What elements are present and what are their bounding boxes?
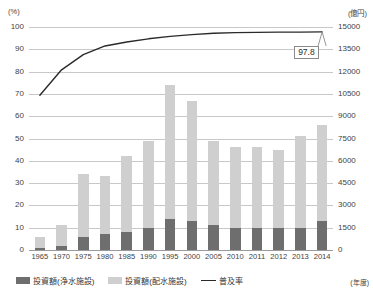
x-tick-1965: 1965 [29, 252, 51, 261]
x-tick-2012: 2012 [268, 252, 290, 261]
y-tick-right-4500: 4500 [338, 179, 373, 187]
y-tick-left-0: 0 [0, 246, 24, 254]
legend-label: 普及率 [219, 275, 243, 286]
y-tick-right-12000: 12000 [338, 68, 373, 76]
x-tick-1980: 1980 [94, 252, 116, 261]
y-tick-right-6000: 6000 [338, 157, 373, 165]
y-tick-right-13500: 13500 [338, 45, 373, 53]
y-tick-right-9000: 9000 [338, 112, 373, 120]
gridline-0 [29, 250, 333, 251]
x-axis-unit-label: (年度) [350, 277, 369, 287]
y-tick-left-20: 20 [0, 201, 24, 209]
chart-legend: 投資額(浄水施設)投資額(配水施設)普及率 [16, 275, 243, 286]
x-tick-1975: 1975 [72, 252, 94, 261]
y-tick-left-10: 10 [0, 224, 24, 232]
legend-label: 投資額(配水施設) [125, 275, 186, 286]
legend-swatch-light [108, 277, 122, 284]
x-tick-1990: 1990 [138, 252, 160, 261]
y-tick-left-30: 30 [0, 179, 24, 187]
x-tick-1985: 1985 [116, 252, 138, 261]
x-tick-1995: 1995 [159, 252, 181, 261]
legend-swatch-dark [16, 277, 30, 284]
legend-item: 投資額(配水施設) [108, 275, 186, 286]
y-tick-right-3000: 3000 [338, 201, 373, 209]
y-tick-left-80: 80 [0, 68, 24, 76]
y-tick-right-15000: 15000 [338, 23, 373, 31]
legend-item: 投資額(浄水施設) [16, 275, 94, 286]
y-tick-left-90: 90 [0, 45, 24, 53]
x-tick-2005: 2005 [203, 252, 225, 261]
left-axis-unit-label: (%) [8, 7, 20, 16]
water-investment-chart: (%) (億円) (年度) 0102030405060708090100 015… [0, 0, 373, 294]
legend-item: 普及率 [201, 275, 243, 286]
y-tick-left-60: 60 [0, 112, 24, 120]
y-tick-right-10500: 10500 [338, 90, 373, 98]
y-tick-left-40: 40 [0, 157, 24, 165]
y-tick-right-7500: 7500 [338, 135, 373, 143]
legend-label: 投資額(浄水施設) [33, 275, 94, 286]
rate-callout-badge: 97.8 [294, 46, 319, 59]
y-tick-left-50: 50 [0, 135, 24, 143]
right-axis-unit-label: (億円) [348, 7, 367, 18]
y-tick-left-70: 70 [0, 90, 24, 98]
y-tick-right-1500: 1500 [338, 224, 373, 232]
x-tick-2000: 2000 [181, 252, 203, 261]
x-tick-2014: 2014 [311, 252, 333, 261]
x-axis-ticks: 1965197019751980198519901995200020052010… [29, 252, 333, 266]
x-tick-2010: 2010 [224, 252, 246, 261]
y-tick-right-0: 0 [338, 246, 373, 254]
x-tick-1970: 1970 [51, 252, 73, 261]
penetration-rate-line [29, 27, 333, 250]
legend-swatch-line [201, 280, 216, 281]
plot-area [29, 27, 333, 250]
y-tick-left-100: 100 [0, 23, 24, 31]
x-tick-2013: 2013 [290, 252, 312, 261]
x-tick-2011: 2011 [246, 252, 268, 261]
